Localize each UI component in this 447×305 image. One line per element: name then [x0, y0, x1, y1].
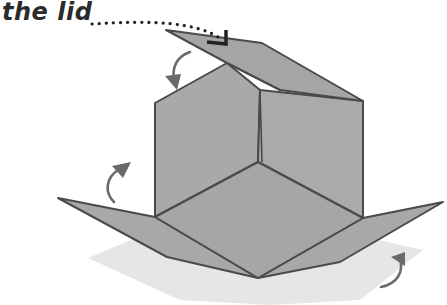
left-flap-fold-arrow-icon — [108, 162, 131, 202]
origami-box-diagram — [0, 0, 447, 305]
lid-label: the lid — [2, 0, 92, 26]
lid-fold-arrow-icon — [165, 52, 190, 90]
